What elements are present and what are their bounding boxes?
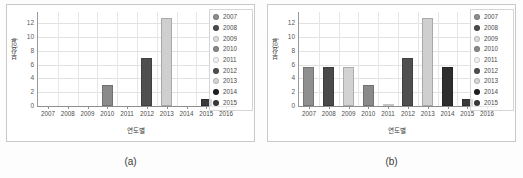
- x-axis-tick-label: 2010: [100, 111, 114, 117]
- legend-item-2007[interactable]: 2007: [474, 12, 511, 23]
- y-axis-tick-label: 10: [27, 34, 34, 41]
- legend-item-2015[interactable]: 2015: [213, 98, 250, 109]
- bar-a-2013: [161, 18, 172, 106]
- vertical-gridline: [58, 12, 59, 106]
- legend-marker-icon: [213, 100, 219, 106]
- x-axis-tick-mark: [408, 106, 409, 109]
- legend-label: 2012: [223, 68, 237, 74]
- x-axis-tick-label: 2012: [401, 111, 415, 117]
- x-axis-tick-label: 2008: [322, 111, 336, 117]
- chart-panel-b: 부상(일) 0246810122007200820092010201120122…: [261, 0, 522, 146]
- vertical-gridline: [97, 12, 98, 106]
- legend-item-2010[interactable]: 2010: [474, 44, 511, 55]
- y-axis-tick-label: 8: [291, 47, 295, 54]
- legend-marker-icon: [213, 46, 219, 52]
- legend-item-2012[interactable]: 2012: [474, 65, 511, 76]
- legend-item-2010[interactable]: 2010: [213, 44, 250, 55]
- x-axis-tick-mark: [349, 106, 350, 109]
- x-axis-tick-mark: [187, 106, 188, 109]
- legend-item-2007[interactable]: 2007: [213, 12, 250, 23]
- panel-container: 부상(일) 0246810122007200820092010201120122…: [0, 0, 523, 146]
- x-axis-tick-mark: [88, 106, 89, 109]
- legend-item-2009[interactable]: 2009: [213, 33, 250, 44]
- legend-label: 2014: [223, 89, 237, 95]
- legend-marker-icon: [474, 46, 480, 52]
- x-axis-tick-label: 2014: [179, 111, 193, 117]
- x-axis-tick-label: 2016: [480, 111, 494, 117]
- bar-b-2014: [442, 67, 453, 106]
- y-axis-tick-label: 10: [288, 34, 295, 41]
- x-axis-tick-label: 2015: [199, 111, 213, 117]
- legend-label: 2011: [484, 57, 498, 63]
- legend-item-2011[interactable]: 2011: [213, 55, 250, 66]
- bar-a-2010: [102, 85, 113, 106]
- legend-marker-icon: [213, 14, 219, 20]
- y-axis-tick-label: 2: [30, 89, 34, 96]
- x-axis-tick-mark: [68, 106, 69, 109]
- legend-label: 2008: [484, 25, 498, 31]
- legend-item-2014[interactable]: 2014: [474, 87, 511, 98]
- legend-label: 2013: [223, 78, 237, 84]
- legend-marker-icon: [474, 14, 480, 20]
- legend-item-2008[interactable]: 2008: [474, 23, 511, 34]
- y-axis-tick-label: 0: [30, 103, 34, 110]
- legend-label: 2010: [484, 46, 498, 52]
- chart-b-legend: 200720082009201020112012201320142015: [470, 9, 514, 111]
- vertical-gridline: [418, 12, 419, 106]
- bar-b-2007: [303, 67, 314, 106]
- legend-marker-icon: [474, 36, 480, 42]
- bar-b-2008: [323, 67, 334, 106]
- x-axis-tick-label: 2009: [341, 111, 355, 117]
- legend-marker-icon: [474, 57, 480, 63]
- legend-marker-icon: [213, 57, 219, 63]
- x-axis-tick-mark: [467, 106, 468, 109]
- vertical-gridline: [177, 12, 178, 106]
- legend-item-2008[interactable]: 2008: [213, 23, 250, 34]
- x-axis-tick-label: 2013: [160, 111, 174, 117]
- legend-marker-icon: [474, 68, 480, 74]
- chart-a-legend: 200720082009201020112012201320142015: [209, 9, 253, 111]
- chart-panel-a: 부상(일) 0246810122007200820092010201120122…: [0, 0, 261, 146]
- vertical-gridline: [398, 12, 399, 106]
- y-axis-tick-label: 6: [291, 61, 295, 68]
- legend-item-2009[interactable]: 2009: [474, 33, 511, 44]
- chart-b-y-axis-label: 부상(일): [272, 38, 282, 60]
- x-axis-tick-mark: [368, 106, 369, 109]
- vertical-gridline: [438, 12, 439, 106]
- x-axis-tick-mark: [206, 106, 207, 109]
- x-axis-tick-mark: [167, 106, 168, 109]
- vertical-gridline: [117, 12, 118, 106]
- x-axis-tick-label: 2010: [361, 111, 375, 117]
- legend-item-2012[interactable]: 2012: [213, 65, 250, 76]
- x-axis-tick-label: 2016: [219, 111, 233, 117]
- legend-label: 2010: [223, 46, 237, 52]
- legend-item-2013[interactable]: 2013: [213, 76, 250, 87]
- legend-item-2014[interactable]: 2014: [213, 87, 250, 98]
- y-axis-tick-label: 8: [30, 47, 34, 54]
- legend-item-2013[interactable]: 2013: [474, 76, 511, 87]
- legend-marker-icon: [213, 68, 219, 74]
- vertical-gridline: [378, 12, 379, 106]
- chart-a-x-axis-label: 연도별: [37, 128, 235, 135]
- y-axis-tick-label: 6: [30, 61, 34, 68]
- x-axis-tick-mark: [107, 106, 108, 109]
- legend-item-2011[interactable]: 2011: [474, 55, 511, 66]
- legend-label: 2015: [223, 100, 237, 106]
- y-axis-tick-label: 4: [291, 75, 295, 82]
- legend-label: 2008: [223, 25, 237, 31]
- x-axis-tick-label: 2012: [140, 111, 154, 117]
- x-axis-tick-label: 2011: [381, 111, 395, 117]
- legend-label: 2007: [484, 14, 498, 20]
- caption-row: (a) (b): [0, 146, 523, 178]
- x-axis-tick-label: 2015: [460, 111, 474, 117]
- x-axis-tick-label: 2009: [80, 111, 94, 117]
- x-axis-tick-label: 2011: [120, 111, 134, 117]
- chart-b-plot-area: 0246810122007200820092010201120122013201…: [298, 12, 497, 107]
- legend-item-2015[interactable]: 2015: [474, 98, 511, 109]
- y-axis-tick-label: 0: [291, 103, 295, 110]
- y-axis-tick-label: 2: [291, 89, 295, 96]
- bar-b-2009: [343, 67, 354, 106]
- caption-a: (a): [0, 146, 261, 178]
- x-axis-tick-label: 2013: [421, 111, 435, 117]
- legend-label: 2009: [484, 36, 498, 42]
